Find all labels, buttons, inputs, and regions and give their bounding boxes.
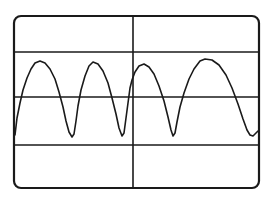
screen-frame: [14, 16, 259, 188]
waveform-trace: [15, 59, 258, 137]
graticule: [14, 16, 259, 188]
oscilloscope-screen: [0, 0, 271, 204]
